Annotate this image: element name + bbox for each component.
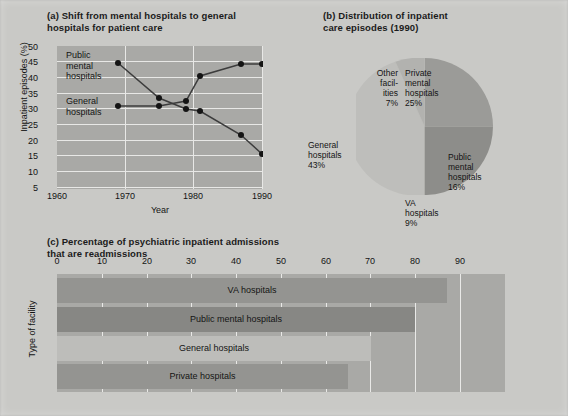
panel-a-ytick-40: 40 — [8, 73, 38, 83]
panel-b-label-va-hospitals: VA hospitals 9% — [405, 198, 439, 228]
panel-c-letter: (c) — [47, 236, 59, 247]
panel-c-xtick-90: 90 — [440, 256, 480, 266]
panel-c-plot-area: VA hospitals Public mental hospitals Gen… — [57, 274, 505, 392]
panel-b-label-public-mental-hospitals: Public mental hospitals 16% — [448, 152, 482, 192]
panel-a-title-line1: Shift from mental hospitals to general — [62, 10, 236, 21]
panel-b-title-line2: care episodes (1990) — [323, 22, 418, 33]
panel-a-ytick-15: 15 — [8, 151, 38, 161]
panel-b-label-other-facilities: Other facil- ities 7% — [362, 68, 398, 108]
panel-c-xtick-10: 10 — [82, 256, 122, 266]
panel-b-title-line1: Distribution of inpatient — [338, 10, 448, 21]
panel-a-ytick-30: 30 — [8, 104, 38, 114]
panel-c-bar-chart: (c) Percentage of psychiatric inpatient … — [0, 232, 568, 416]
panel-b-label-general-hospitals: General hospitals 43% — [308, 140, 342, 170]
panel-a-ytick-25: 25 — [8, 120, 38, 130]
panel-b-title: (b) Distribution of inpatient care episo… — [323, 10, 553, 34]
bar-label-private-hospitals: Private hospitals — [57, 371, 348, 381]
panel-c-xtick-0: 0 — [37, 256, 77, 266]
panel-a-title-line2: hospitals for patient care — [47, 22, 163, 33]
panel-c-y-axis-label: Type of facility — [27, 269, 37, 389]
bar-label-general-hospitals: General hospitals — [57, 343, 371, 353]
panel-a-ytick-10: 10 — [8, 167, 38, 177]
panel-c-gridline — [460, 274, 461, 392]
panel-a-ytick-35: 35 — [8, 89, 38, 99]
figure-page: (a) Shift from mental hospitals to gener… — [0, 0, 568, 416]
panel-a-xtick-1990: 1990 — [242, 191, 282, 201]
panel-a-xtick-1970: 1970 — [105, 191, 145, 201]
panel-b-letter: (b) — [323, 10, 335, 21]
panel-c-xtick-50: 50 — [261, 256, 301, 266]
panel-c-xtick-20: 20 — [127, 256, 167, 266]
panel-a-letter: (a) — [47, 10, 59, 21]
panel-a-xtick-1980: 1980 — [173, 191, 213, 201]
panel-a-ytick-5: 5 — [8, 183, 38, 193]
panel-b-label-private-mental-hospitals: Private mental hospitals 25% — [405, 68, 439, 108]
panel-a-x-axis-label: Year — [57, 205, 263, 215]
panel-a-ytick-20: 20 — [8, 136, 38, 146]
panel-c-title-line1: Percentage of psychiatric inpatient admi… — [62, 236, 279, 247]
bar-label-public-mental-hospitals: Public mental hospitals — [57, 314, 415, 324]
panel-c-xtick-40: 40 — [216, 256, 256, 266]
panel-c-xtick-60: 60 — [306, 256, 346, 266]
panel-a-series-label-public: Public mental hospitals — [66, 50, 102, 82]
panel-a-series-label-general: General hospitals — [66, 96, 102, 117]
panel-c-xtick-70: 70 — [350, 256, 390, 266]
panel-a-ytick-45: 45 — [8, 57, 38, 67]
panel-c-xtick-80: 80 — [395, 256, 435, 266]
panel-a-ytick-50: 50 — [8, 42, 38, 52]
panel-a-title: (a) Shift from mental hospitals to gener… — [47, 10, 297, 34]
panel-a-line-chart: (a) Shift from mental hospitals to gener… — [0, 0, 300, 232]
panel-b-pie-chart: (b) Distribution of inpatient care episo… — [300, 0, 568, 240]
panel-a-xtick-1960: 1960 — [37, 191, 77, 201]
bar-label-va-hospitals: VA hospitals — [57, 285, 447, 295]
panel-c-xtick-30: 30 — [171, 256, 211, 266]
